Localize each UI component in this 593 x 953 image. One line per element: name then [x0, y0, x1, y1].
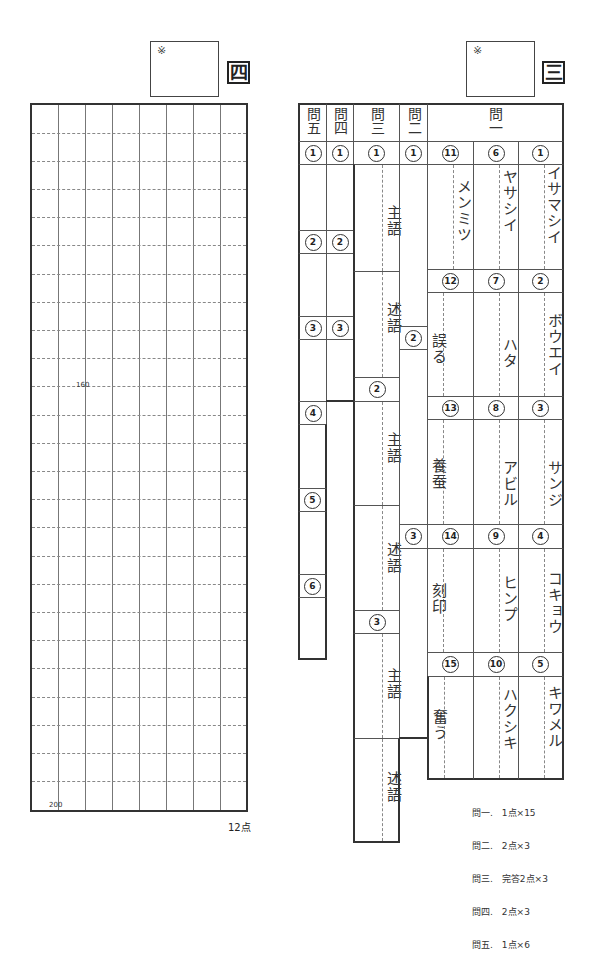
- q4-num-2: 2: [326, 230, 354, 254]
- q1-num-10: 10: [473, 652, 519, 677]
- table-step-line: [399, 737, 428, 739]
- q1-answer-5[interactable]: キワメル: [518, 676, 564, 780]
- q5-num-2: 2: [298, 230, 327, 254]
- section4-points: 12点: [228, 819, 251, 834]
- q5-answer-1[interactable]: [298, 164, 327, 231]
- q5-answer-2[interactable]: [298, 253, 327, 317]
- counter-160: 160: [76, 381, 89, 389]
- scoring-q4: 問四. 2点×3: [472, 907, 548, 918]
- header-q4: 問四: [326, 103, 354, 142]
- score-mark: ※: [157, 44, 166, 57]
- q1-num-5: 5: [518, 652, 564, 677]
- section3-label: 三: [542, 61, 565, 84]
- q1-num-4: 4: [518, 524, 564, 549]
- q4-num-1: 1: [326, 141, 354, 165]
- q5-num-3: 3: [298, 316, 327, 340]
- q5-answer-4[interactable]: [298, 424, 327, 489]
- table-step-line: [326, 400, 354, 402]
- q1-num-11: 11: [427, 141, 474, 165]
- counter-200: 200: [49, 801, 62, 809]
- q3-num-3: 3: [353, 610, 400, 634]
- q1-answer-15[interactable]: 奮う: [427, 676, 474, 780]
- q1-num-3: 3: [518, 396, 564, 420]
- q1-answer-9[interactable]: ヒンプ: [473, 548, 519, 653]
- q5-num-5: 5: [298, 488, 327, 512]
- q1-num-12: 12: [427, 269, 474, 293]
- header-q2: 問二: [399, 103, 428, 142]
- q4-answer-3[interactable]: [326, 339, 354, 402]
- q3-predicate-3[interactable]: 述語: [353, 738, 400, 843]
- q1-num-6: 6: [473, 141, 519, 165]
- q1-answer-14[interactable]: 刻印: [427, 548, 474, 653]
- q5-answer-5[interactable]: [298, 511, 327, 575]
- q4-answer-1[interactable]: [326, 164, 354, 231]
- score-mark: ※: [473, 44, 482, 57]
- scoring-q1: 問一. 1点×15: [472, 808, 548, 819]
- q5-num-1: 1: [298, 141, 327, 165]
- composition-grid[interactable]: 160 200: [30, 103, 248, 812]
- q1-answer-6[interactable]: ヤサシイ: [473, 164, 519, 270]
- q4-answer-2[interactable]: [326, 253, 354, 317]
- header-q5: 問五: [298, 103, 327, 142]
- q1-num-15: 15: [427, 652, 474, 677]
- q2-num-1: 1: [399, 141, 428, 165]
- scoring-q2: 問二. 2点×3: [472, 841, 548, 852]
- scoring-q5: 問五. 1点×6: [472, 940, 548, 951]
- q2-num-3: 3: [399, 524, 428, 549]
- section4-label: 四: [227, 61, 250, 84]
- q1-answer-7[interactable]: ハタ: [473, 292, 519, 397]
- q2-answer-1[interactable]: [399, 164, 428, 327]
- q5-answer-6[interactable]: [298, 597, 327, 660]
- q1-answer-11[interactable]: メンミツ: [427, 164, 474, 270]
- q1-num-8: 8: [473, 396, 519, 420]
- q2-answer-3[interactable]: [399, 548, 428, 739]
- scoring-legend: 問一. 1点×15 問二. 2点×3 問三. 完答2点×3 問四. 2点×3 問…: [472, 786, 548, 953]
- section3-score-box[interactable]: ※: [466, 41, 535, 97]
- q1-answer-3[interactable]: サンジ: [518, 419, 564, 525]
- q1-answer-12[interactable]: 誤る: [427, 292, 474, 397]
- q1-num-2: 2: [518, 269, 564, 293]
- q3-num-1: 1: [353, 141, 400, 165]
- q3-predicate-1[interactable]: 述語: [353, 271, 400, 378]
- q1-answer-2[interactable]: ボウエイ: [518, 292, 564, 397]
- header-q3: 問三: [353, 103, 400, 142]
- q5-num-4: 4: [298, 401, 327, 425]
- q3-predicate-2[interactable]: 述語: [353, 505, 400, 611]
- q3-subject-3[interactable]: 主語: [353, 633, 400, 739]
- q3-subject-2[interactable]: 主語: [353, 401, 400, 506]
- q1-num-7: 7: [473, 269, 519, 293]
- q1-num-13: 13: [427, 396, 474, 420]
- header-q1: 問一: [427, 103, 564, 142]
- section4-score-box[interactable]: ※: [150, 41, 219, 97]
- q2-num-2: 2: [399, 326, 428, 350]
- q3-num-2: 2: [353, 377, 400, 402]
- q4-num-3: 3: [326, 316, 354, 340]
- q1-num-9: 9: [473, 524, 519, 549]
- q3-subject-1[interactable]: 主語: [353, 164, 400, 272]
- q1-answer-1[interactable]: イサマシイ: [518, 164, 564, 270]
- q5-num-6: 6: [298, 574, 327, 598]
- q5-answer-3[interactable]: [298, 339, 327, 402]
- q1-answer-13[interactable]: 養蚕: [427, 419, 474, 525]
- q1-answer-8[interactable]: アビル: [473, 419, 519, 525]
- q1-answer-4[interactable]: コキョウ: [518, 548, 564, 653]
- q2-answer-2[interactable]: [399, 349, 428, 525]
- q1-num-1: 1: [518, 141, 564, 165]
- q1-answer-10[interactable]: ハクシキ: [473, 676, 519, 780]
- scoring-q3: 問三. 完答2点×3: [472, 874, 548, 885]
- q1-num-14: 14: [427, 524, 474, 549]
